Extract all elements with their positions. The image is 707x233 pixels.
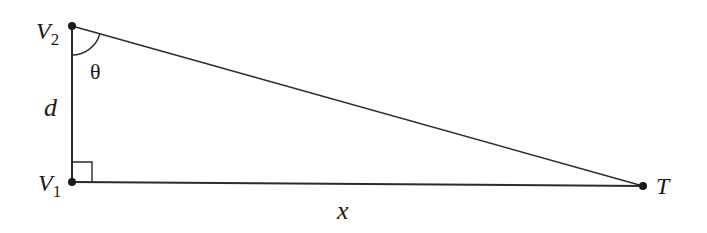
label-v2: V2 bbox=[36, 18, 59, 49]
label-d: d bbox=[44, 93, 58, 122]
vertex-v1-dot bbox=[68, 178, 76, 186]
right-angle-marker bbox=[72, 162, 92, 182]
label-x: x bbox=[336, 196, 349, 225]
label-t: T bbox=[656, 173, 671, 199]
vertex-t-dot bbox=[639, 182, 647, 190]
label-theta: θ bbox=[90, 59, 101, 84]
triangle-diagram: V2 V1 T d x θ bbox=[0, 0, 707, 233]
edge-hypotenuse bbox=[72, 26, 643, 186]
theta-arc bbox=[72, 34, 100, 55]
edge-x bbox=[72, 182, 643, 186]
label-v1: V1 bbox=[38, 170, 61, 201]
vertex-v2-dot bbox=[68, 22, 76, 30]
